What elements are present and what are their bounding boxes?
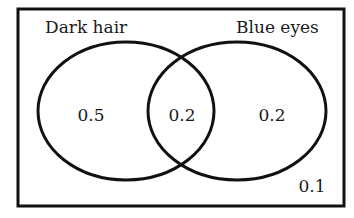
venn-diagram: Dark hair Blue eyes 0.5 0.2 0.2 0.1 <box>0 0 354 218</box>
outside-value: 0.1 <box>298 176 325 196</box>
b-only-value: 0.2 <box>258 105 285 125</box>
intersection-value: 0.2 <box>168 105 195 125</box>
a-only-value: 0.5 <box>77 105 104 125</box>
set-a-label: Dark hair <box>45 17 128 37</box>
set-b-label: Blue eyes <box>236 17 319 37</box>
